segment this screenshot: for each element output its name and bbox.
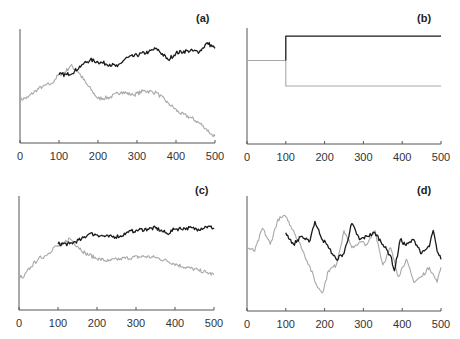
x-tick-label: 300 — [354, 151, 372, 163]
x-tick-label: 0 — [16, 317, 22, 329]
dark-series-line — [286, 36, 441, 60]
light-series-line — [19, 238, 214, 278]
x-tick-label: 500 — [432, 318, 450, 330]
dark-series-line — [59, 43, 215, 77]
x-tick-label: 400 — [393, 151, 411, 163]
x-tick-label: 200 — [315, 318, 333, 330]
panel-d: 0100200300400500(d) — [244, 184, 450, 330]
x-tick-label: 500 — [206, 150, 224, 162]
x-tick-label: 400 — [393, 318, 411, 330]
x-tick-label: 100 — [50, 150, 68, 162]
dark-series-line — [286, 221, 441, 270]
panel-label: (d) — [417, 184, 431, 196]
x-tick-label: 200 — [315, 151, 333, 163]
x-tick-label: 300 — [128, 150, 146, 162]
panel-label: (c) — [195, 184, 209, 196]
x-tick-label: 0 — [244, 318, 250, 330]
panel-label: (b) — [417, 12, 431, 24]
panel-b: 0100200300400500(b) — [244, 12, 450, 163]
panel-c: 0100200300400500(c) — [16, 184, 223, 329]
light-series-line — [247, 61, 441, 87]
x-tick-label: 300 — [127, 317, 145, 329]
panel-a: 0100200300400500(a) — [17, 12, 224, 162]
x-tick-label: 0 — [17, 150, 23, 162]
panel-label: (a) — [196, 12, 210, 24]
x-tick-label: 400 — [167, 150, 185, 162]
x-tick-label: 500 — [432, 151, 450, 163]
x-tick-label: 300 — [354, 318, 372, 330]
x-tick-label: 100 — [277, 318, 295, 330]
light-series-line — [20, 65, 215, 137]
figure: 0100200300400500(a) 0100200300400500(b) … — [0, 0, 460, 339]
x-tick-label: 200 — [88, 317, 106, 329]
x-tick-label: 400 — [166, 317, 184, 329]
x-tick-label: 100 — [49, 317, 67, 329]
x-tick-label: 100 — [277, 151, 295, 163]
x-tick-label: 200 — [89, 150, 107, 162]
dark-series-line — [58, 226, 214, 246]
x-tick-label: 500 — [205, 317, 223, 329]
x-tick-label: 0 — [244, 151, 250, 163]
